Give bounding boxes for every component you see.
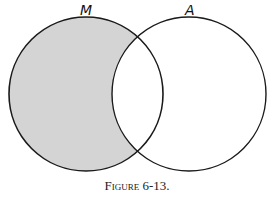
label-m: M xyxy=(80,2,92,18)
venn-diagram xyxy=(0,0,274,199)
label-a: A xyxy=(185,2,195,18)
figure-caption: Figure 6-13. xyxy=(0,178,274,194)
